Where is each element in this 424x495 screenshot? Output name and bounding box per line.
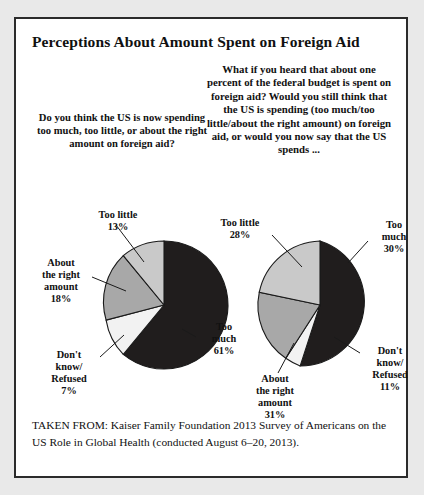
question-right-text: What if you heard that about one percent… <box>204 63 394 157</box>
figure-panel: Perceptions About Amount Spent on Foreig… <box>14 17 408 478</box>
question-left-text: Do you think the US is now spending too … <box>34 111 210 150</box>
label-left-too-little: Too little 13% <box>78 209 158 233</box>
label-left-about-right: About the right amount 18% <box>30 257 92 306</box>
label-left-too-much: Too much 61% <box>198 321 250 357</box>
source-note: TAKEN FROM: Kaiser Family Foundation 201… <box>32 417 396 450</box>
label-left-dont-know: Don't know/ Refused 7% <box>38 349 100 398</box>
label-right-about-right: About the right amount 31% <box>238 373 312 422</box>
pie-chart-left <box>84 225 244 385</box>
label-right-too-little: Too little 28% <box>204 217 276 241</box>
label-right-dont-know: Don't know/ Refused 11% <box>360 345 420 394</box>
page-title: Perceptions About Amount Spent on Foreig… <box>32 33 360 51</box>
label-right-too-much: Too much 30% <box>368 219 420 255</box>
